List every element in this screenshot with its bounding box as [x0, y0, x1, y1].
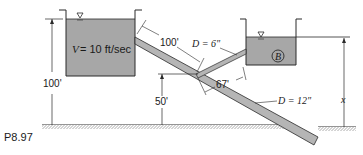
branch-pipe	[196, 49, 246, 78]
branch-length-label: 67'	[216, 79, 229, 90]
velocity-value: = 10 ft/sec	[80, 43, 132, 55]
tank-a-elevation-dimension	[45, 19, 63, 125]
branch-diameter-leader	[220, 48, 237, 55]
figure-label: P8.97	[4, 131, 33, 143]
pipe-network-diagram: B x 100' 50' 100'	[0, 0, 363, 155]
junction-elevation-label: 50'	[155, 96, 168, 107]
ground-right	[318, 127, 356, 131]
ground-left	[42, 125, 285, 129]
branch-diameter-label: D = 6"	[191, 38, 221, 49]
main-diameter-leader	[255, 101, 277, 103]
x-elevation-label: x	[340, 94, 346, 105]
reservoir-b: B	[240, 19, 302, 65]
tank-a-elevation-label: 100'	[43, 78, 62, 89]
tank-b-label: B	[275, 51, 281, 62]
upper-segment-length-label: 100'	[160, 37, 179, 48]
x-dimension	[342, 38, 346, 127]
main-diameter-label: D = 12"	[277, 95, 312, 106]
